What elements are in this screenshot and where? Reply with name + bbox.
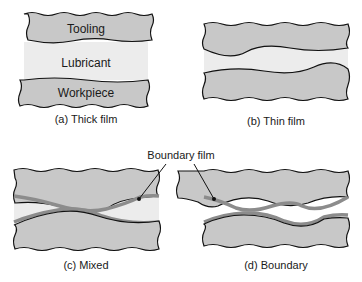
- caption-a: (a) Thick film: [55, 113, 118, 125]
- panel-thin-film: (b) Thin film: [203, 23, 350, 128]
- panel-boundary: (d) Boundary: [177, 170, 350, 272]
- workpiece-label: Workpiece: [58, 86, 115, 100]
- caption-b: (b) Thin film: [247, 115, 305, 127]
- caption-c: (c) Mixed: [63, 259, 108, 271]
- panel-mixed: (c) Mixed: [14, 169, 161, 272]
- caption-d: (d) Boundary: [244, 259, 308, 271]
- workpiece-block: [203, 215, 350, 248]
- callout-label: Boundary film: [147, 149, 214, 161]
- callout-dot-left: [137, 197, 141, 201]
- panel-thick-film: Tooling Lubricant Workpiece (a) Thick fi…: [19, 13, 154, 126]
- lubrication-regimes-diagram: Tooling Lubricant Workpiece (a) Thick fi…: [0, 0, 362, 282]
- callout-dot-right: [212, 197, 216, 201]
- lubricant-label: Lubricant: [61, 56, 111, 70]
- tooling-label: Tooling: [67, 22, 105, 36]
- tooling-block: [177, 170, 350, 207]
